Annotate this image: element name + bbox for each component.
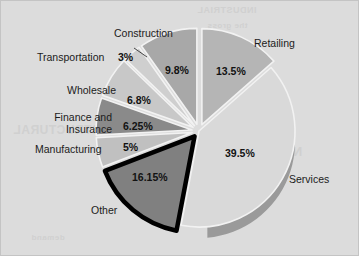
slice-value-label: 5% — [123, 141, 138, 153]
slice-value-label: 6.8% — [127, 94, 151, 106]
slice-category-label: Manufacturing — [35, 143, 102, 155]
slice-category-label: Transportation — [37, 51, 104, 63]
slice-value-label: 39.5% — [225, 147, 255, 159]
slice-category-label: Retailing — [254, 37, 295, 49]
slice-value-label: 9.8% — [165, 64, 189, 76]
slice-value-label: 3% — [118, 51, 133, 63]
slice-value-label: 6.25% — [123, 120, 153, 132]
slice-value-label: 13.5% — [216, 65, 246, 77]
slice-category-label: Other — [91, 204, 117, 216]
pie-chart-figure: INDUSTRIAL the gross NATURAL financing d… — [0, 0, 359, 256]
slice-value-label: 16.15% — [132, 171, 168, 183]
slice-category-label: Services — [289, 173, 329, 185]
slice-category-label: Wholesale — [67, 84, 116, 96]
slice-category-label: Finance andInsurance — [54, 111, 112, 135]
slice-category-label: Construction — [114, 27, 173, 39]
